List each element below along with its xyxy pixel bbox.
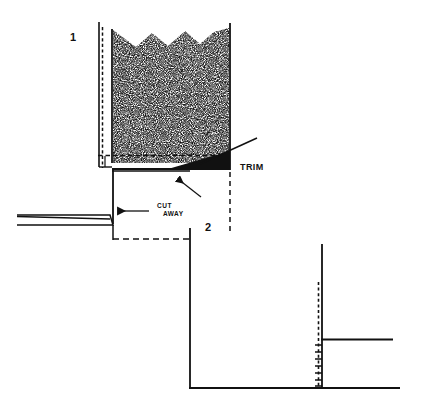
panel-2-number: 2	[205, 221, 211, 233]
figure-root: TRIM CUT AWAY 1 2	[0, 0, 421, 411]
granular-fill	[110, 25, 232, 167]
technical-diagram: TRIM CUT AWAY 1 2	[0, 0, 421, 411]
panel-1-number: 1	[70, 31, 76, 43]
cut-away-label-line1: CUT	[157, 202, 172, 209]
cut-away-label-line2: AWAY	[163, 210, 184, 217]
trim-label: TRIM	[240, 162, 264, 172]
